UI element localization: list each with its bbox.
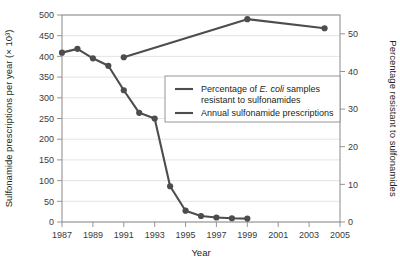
legend-text-prescriptions: Annual sulfonamide prescriptions	[201, 108, 334, 118]
x-tick-label: 1987	[52, 230, 72, 240]
sulfonamide-chart: 0 50 100 150 200 250 300 350 400 450 500…	[0, 0, 400, 264]
right-tick-label: 20	[348, 142, 358, 152]
x-axis-title: Year	[191, 247, 210, 258]
x-tick-label: 2003	[299, 230, 319, 240]
right-tick-label: 10	[348, 180, 358, 190]
left-tick-label: 300	[39, 93, 54, 103]
left-tick-label: 250	[39, 114, 54, 124]
data-point	[229, 215, 235, 221]
right-tick-label: 0	[348, 217, 353, 227]
right-tick-label: 30	[348, 104, 358, 114]
legend-label-resistance: Percentage of E. coli samples	[201, 84, 321, 94]
right-tick-label: 40	[348, 67, 358, 77]
data-point	[152, 115, 158, 121]
left-tick-label: 50	[44, 197, 54, 207]
x-tick-label: 1997	[206, 230, 226, 240]
data-point	[198, 213, 204, 219]
left-tick-label: 500	[39, 10, 54, 20]
data-point	[90, 55, 96, 61]
data-point	[136, 110, 142, 116]
chart-legend: Percentage of E. coli samples resistant …	[165, 76, 340, 122]
right-tick-label: 50	[348, 29, 358, 39]
left-tick-label: 450	[39, 31, 54, 41]
y-axis-title: Sulfonamide prescriptions per year (× 10…	[3, 30, 14, 208]
data-point	[182, 208, 188, 214]
legend-label-prescriptions: Annual sulfonamide prescriptions	[201, 108, 334, 118]
legend-text-line2: resistant to sulfonamides	[201, 95, 301, 105]
left-tick-label: 100	[39, 176, 54, 186]
x-tick-label: 1999	[237, 230, 257, 240]
y-axis-title-text: Sulfonamide prescriptions per year (× 10…	[3, 30, 14, 208]
x-tick-label: 2005	[330, 230, 350, 240]
data-point	[105, 63, 111, 69]
x-tick-label: 2001	[268, 230, 288, 240]
data-point	[167, 183, 173, 189]
x-tick-label: 1989	[83, 230, 103, 240]
x-tick-label: 1991	[114, 230, 134, 240]
data-point	[121, 87, 127, 93]
data-point	[121, 54, 127, 60]
data-point	[321, 25, 327, 31]
left-tick-label: 350	[39, 72, 54, 82]
x-tick-label: 1995	[176, 230, 196, 240]
x-axis-title-text: Year	[191, 247, 210, 258]
data-point	[213, 214, 219, 220]
legend-label-resistance-line2: resistant to sulfonamides	[201, 95, 301, 105]
legend-text-part-c: samples	[284, 84, 321, 94]
left-tick-label: 200	[39, 134, 54, 144]
left-tick-label: 0	[49, 217, 54, 227]
y2-axis-title-text: Percentage resistant to sulfonamides	[388, 40, 399, 197]
legend-text-part-italic: E. coli	[260, 84, 286, 94]
data-point	[59, 50, 65, 56]
x-tick-label: 1993	[145, 230, 165, 240]
data-point	[74, 46, 80, 52]
chart-figure: 0 50 100 150 200 250 300 350 400 450 500…	[0, 0, 400, 264]
left-tick-label: 150	[39, 155, 54, 165]
data-point	[244, 16, 250, 22]
left-tick-label: 400	[39, 52, 54, 62]
data-point	[244, 216, 250, 222]
y2-axis-title: Percentage resistant to sulfonamides	[388, 40, 399, 197]
legend-text-part-a: Percentage of	[201, 84, 260, 94]
